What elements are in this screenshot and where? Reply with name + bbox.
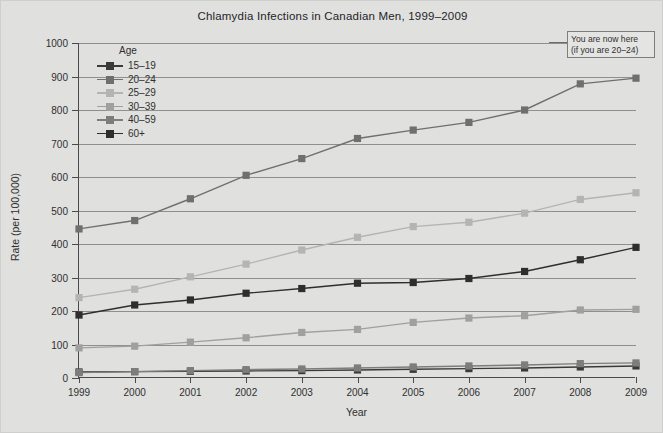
legend-item-label: 30–39 (128, 101, 156, 112)
legend-swatch-icon (97, 74, 123, 85)
data-point-marker (354, 364, 361, 371)
x-axis-tick-label: 2003 (291, 387, 313, 398)
data-point-marker (298, 365, 305, 372)
annotation-line-2: (if you are 20–24) (571, 45, 651, 56)
x-axis-tick-label: 2006 (458, 387, 480, 398)
data-point-marker (75, 369, 82, 376)
legend-item[interactable]: 20–24 (97, 73, 156, 87)
data-point-marker (187, 296, 194, 303)
x-axis-tick-label: 2002 (235, 387, 257, 398)
x-axis-tick-label: 2000 (124, 387, 146, 398)
legend-item-label: 15–19 (128, 60, 156, 71)
y-axis-tick (72, 244, 79, 245)
x-axis-tick-label: 2008 (569, 387, 591, 398)
data-point-marker (577, 306, 584, 313)
data-point-marker (131, 217, 138, 224)
legend-item[interactable]: 30–39 (97, 100, 156, 114)
series-30-39 (75, 306, 639, 352)
legend-item[interactable]: 40–59 (97, 113, 156, 127)
data-point-marker (632, 359, 639, 366)
data-point-marker (354, 135, 361, 142)
data-point-marker (410, 279, 417, 286)
legend: Age 15–1920–2425–2930–3940–5960+ (97, 45, 156, 140)
data-point-marker (75, 225, 82, 232)
data-point-marker (410, 319, 417, 326)
data-point-marker (577, 80, 584, 87)
y-axis-tick (72, 110, 79, 111)
data-point-marker (243, 334, 250, 341)
data-point-marker (354, 280, 361, 287)
annotation-callout: You are now here (if you are 20–24) (567, 31, 655, 58)
data-point-marker (75, 311, 82, 318)
legend-swatch-icon (97, 114, 123, 125)
y-axis-tick-label: 0 (62, 373, 68, 384)
legend-swatch-icon (97, 128, 123, 139)
y-axis-tick (72, 378, 79, 379)
data-point-marker (410, 127, 417, 134)
legend-item[interactable]: 25–29 (97, 86, 156, 100)
chart-title: Chlamydia Infections in Canadian Men, 19… (1, 10, 663, 22)
y-axis-tick (72, 43, 79, 44)
plot-area: 0100200300400500600700800900100019992000… (78, 43, 635, 378)
data-point-marker (521, 106, 528, 113)
data-point-marker (243, 261, 250, 268)
data-point-marker (243, 366, 250, 373)
y-axis-tick-label: 300 (51, 272, 68, 283)
data-point-marker (410, 223, 417, 230)
data-point-marker (410, 363, 417, 370)
data-point-marker (577, 196, 584, 203)
data-point-marker (465, 362, 472, 369)
series-20-24 (75, 75, 639, 233)
x-axis-tick-label: 2004 (346, 387, 368, 398)
data-point-marker (243, 172, 250, 179)
x-axis-tick-label: 2005 (402, 387, 424, 398)
series-layer (79, 43, 636, 378)
legend-swatch-icon (97, 60, 123, 71)
y-axis-tick-label: 600 (51, 172, 68, 183)
y-axis-tick-label: 700 (51, 138, 68, 149)
legend-item-label: 25–29 (128, 87, 156, 98)
data-point-marker (521, 312, 528, 319)
y-axis-tick (72, 278, 79, 279)
data-point-marker (354, 234, 361, 241)
data-point-marker (298, 155, 305, 162)
data-point-marker (187, 273, 194, 280)
data-point-marker (632, 75, 639, 82)
y-axis-tick-label: 200 (51, 306, 68, 317)
y-axis-tick-label: 100 (51, 339, 68, 350)
y-axis-tick-label: 800 (51, 105, 68, 116)
data-point-marker (465, 219, 472, 226)
y-axis-tick-label: 400 (51, 239, 68, 250)
legend-swatch-icon (97, 101, 123, 112)
data-point-marker (243, 290, 250, 297)
legend-item[interactable]: 15–19 (97, 59, 156, 73)
chart-figure: Chlamydia Infections in Canadian Men, 19… (0, 0, 663, 433)
data-point-marker (465, 275, 472, 282)
data-point-marker (298, 329, 305, 336)
y-axis-tick-label: 1000 (46, 38, 68, 49)
data-point-marker (75, 344, 82, 351)
x-axis-tick-label: 2009 (625, 387, 647, 398)
data-point-marker (354, 326, 361, 333)
series-60- (75, 244, 639, 319)
data-point-marker (465, 119, 472, 126)
data-point-marker (521, 210, 528, 217)
y-axis-tick-label: 900 (51, 71, 68, 82)
data-point-marker (521, 268, 528, 275)
data-point-marker (577, 360, 584, 367)
legend-swatch-icon (97, 87, 123, 98)
data-point-marker (521, 361, 528, 368)
x-axis-tick-label: 2007 (513, 387, 535, 398)
legend-rows: 15–1920–2425–2930–3940–5960+ (97, 59, 156, 140)
data-point-marker (187, 339, 194, 346)
data-point-marker (131, 343, 138, 350)
x-axis-tick-label: 2001 (179, 387, 201, 398)
y-axis-title: Rate (per 100,000) (9, 172, 21, 260)
legend-item-label: 40–59 (128, 114, 156, 125)
x-axis-title: Year (78, 406, 635, 418)
data-point-marker (75, 294, 82, 301)
data-point-marker (632, 306, 639, 313)
data-point-marker (131, 286, 138, 293)
legend-item[interactable]: 60+ (97, 127, 156, 141)
data-point-marker (465, 314, 472, 321)
